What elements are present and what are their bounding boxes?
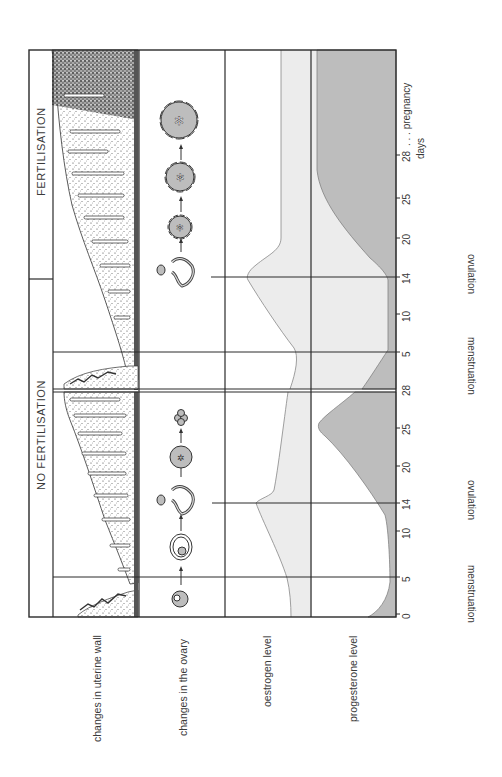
tick-label-day-28: 28 xyxy=(402,385,412,396)
ruptured-follicle-icon-2 xyxy=(157,259,193,286)
tick-label-c2-day-28: 28 xyxy=(402,151,412,162)
row-label-oestrogen: oestrogen level xyxy=(262,636,273,707)
event-label-menstruation-1: menstruation xyxy=(466,565,476,623)
tick-label-c2-day-5: 5 xyxy=(402,351,412,357)
tick-label-c2-day-10: 10 xyxy=(402,311,412,322)
developing-follicle-icon xyxy=(170,534,192,560)
tick-label-c2-day-20: 20 xyxy=(402,234,412,245)
axis-unit-label: days xyxy=(416,138,426,159)
svg-text:✲: ✲ xyxy=(177,453,185,463)
svg-text:✲: ✲ xyxy=(176,223,184,233)
section-title-fertilisation: FERTILISATION xyxy=(36,107,47,196)
tick-label-day-20: 20 xyxy=(402,462,412,473)
tick-label-day-25: 25 xyxy=(402,424,412,435)
tick-label-c2-day-14: 14 xyxy=(402,273,412,284)
tick-label-c2-day-25: 25 xyxy=(402,194,412,205)
row-label-progesterone: progesterone level xyxy=(348,636,359,722)
growing-corpus-luteum-icon: ✲ xyxy=(165,162,195,192)
row-label-ovary: changes in the ovary xyxy=(178,639,189,736)
event-label-ovulation-2: ovulation xyxy=(466,254,476,294)
tick-label-day-10: 10 xyxy=(402,528,412,539)
pregnancy-corpus-luteum-icon: ✲ xyxy=(160,101,198,139)
event-label-menstruation-2: menstruation xyxy=(466,337,476,395)
uterine-wall-fertilisation xyxy=(52,50,138,390)
uterine-wall-no-fertilisation xyxy=(64,366,138,617)
svg-text:✲: ✲ xyxy=(174,114,184,128)
tick-label-day-0: 0 xyxy=(402,613,412,619)
section-title-no-fertilisation: NO FERTILISATION xyxy=(36,380,47,490)
follicle-icon xyxy=(172,591,188,607)
tick-label-day-5: 5 xyxy=(402,576,412,582)
row-label-uterine-wall: changes in uterine wall xyxy=(92,635,103,742)
event-label-ovulation-1: ovulation xyxy=(466,480,476,520)
corpus-luteum-icon-2: ✲ xyxy=(168,215,192,239)
ruptured-follicle-icon xyxy=(157,487,193,514)
tick-label-day-14: 14 xyxy=(402,499,412,510)
menstrual-cycle-diagram: ✲ ✲ ✲ xyxy=(0,0,502,777)
axis-continuation-label: . . . pregnancy xyxy=(402,83,412,146)
svg-text:✲: ✲ xyxy=(176,172,184,183)
corpus-luteum-icon: ✲ xyxy=(170,446,192,468)
degenerating-corpus-luteum-icon xyxy=(175,410,188,426)
ovary-stages: ✲ ✲ ✲ xyxy=(157,101,198,607)
